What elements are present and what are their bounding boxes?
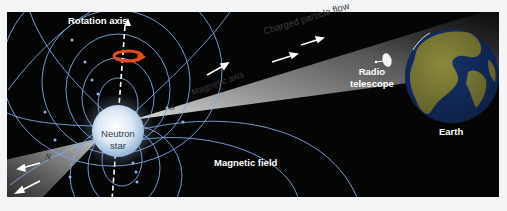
- radio-telescope-label-line1: Radio: [350, 66, 394, 78]
- radio-telescope-label: Radio telescope: [350, 66, 394, 90]
- radio-telescope-label-line2: telescope: [350, 78, 394, 90]
- neutron-star-label-line1: Neutron: [96, 128, 140, 140]
- pulsar-diagram: Rotation axis Charged particle flow Magn…: [0, 0, 507, 211]
- north-pole-label: N: [45, 152, 51, 163]
- magnetic-field-label: Magnetic field: [214, 157, 277, 168]
- rotation-axis-label: Rotation axis: [68, 15, 128, 26]
- neutron-star-label: Neutron star: [96, 128, 140, 152]
- neutron-star-label-line2: star: [96, 140, 140, 152]
- earth-label: Earth: [439, 126, 463, 137]
- diagram-canvas: [0, 0, 507, 211]
- south-pole-label: S: [170, 102, 175, 113]
- earth-globe: [405, 29, 499, 123]
